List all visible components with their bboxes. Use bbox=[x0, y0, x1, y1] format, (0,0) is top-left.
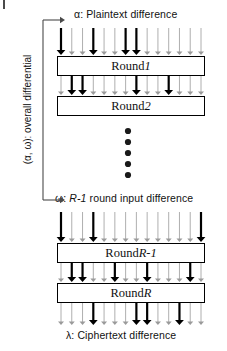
arrow-head bbox=[176, 279, 182, 282]
arrow-head bbox=[187, 52, 193, 55]
arrow-head bbox=[80, 322, 86, 325]
round-box-index: 1 bbox=[145, 59, 151, 74]
arrow-head bbox=[90, 92, 96, 95]
arrow-head bbox=[69, 322, 75, 325]
arrow-head bbox=[198, 279, 204, 282]
arrow-head bbox=[123, 92, 129, 95]
arrow-head bbox=[101, 52, 107, 55]
round-box: Round R bbox=[57, 283, 205, 303]
arrow-row-plaintext-to-round-1 bbox=[57, 28, 204, 55]
bracket-arrow-head bbox=[60, 197, 65, 203]
arrow-head bbox=[101, 239, 107, 242]
differential-cryptanalysis-diagram: (α, ω): overall differential α: Plaintex… bbox=[0, 0, 227, 351]
arrow-head bbox=[89, 320, 98, 325]
arrow-head bbox=[166, 52, 172, 55]
arrow-head bbox=[144, 92, 150, 95]
round-box-prefix: Round bbox=[111, 59, 144, 74]
arrow-head bbox=[112, 52, 118, 55]
arrow-head bbox=[89, 50, 98, 55]
arrow-head bbox=[155, 279, 161, 282]
arrow-head bbox=[67, 277, 76, 282]
arrow-head bbox=[110, 277, 119, 282]
arrow-head bbox=[67, 90, 76, 95]
arrow-head bbox=[57, 50, 66, 55]
arrow-row-round-r-to-ciphertext bbox=[58, 303, 204, 325]
arrow-head bbox=[132, 320, 141, 325]
round-box-prefix: Round bbox=[111, 99, 144, 114]
arrow-head bbox=[132, 50, 141, 55]
arrow-head bbox=[198, 52, 204, 55]
arrow-row-round-1-to-round-2 bbox=[58, 76, 204, 95]
arrow-head bbox=[175, 320, 184, 325]
arrow-head bbox=[143, 277, 152, 282]
arrow-head bbox=[112, 239, 118, 242]
arrow-head bbox=[166, 239, 172, 242]
round-box: Round R-1 bbox=[57, 243, 205, 263]
arrow-head bbox=[89, 237, 98, 242]
arrow-head bbox=[176, 239, 182, 242]
arrow-head bbox=[186, 277, 195, 282]
arrow-row-omega-to-round-r-minus-1 bbox=[57, 212, 206, 242]
arrow-head bbox=[144, 239, 150, 242]
arrow-head bbox=[176, 52, 182, 55]
arrow-head bbox=[123, 279, 129, 282]
arrow-head bbox=[123, 322, 129, 325]
ellipsis-dot bbox=[125, 161, 131, 167]
ellipsis-dot bbox=[125, 139, 131, 145]
arrow-head bbox=[57, 237, 66, 242]
arrow-head bbox=[155, 92, 161, 95]
arrow-row-round-r-minus-1-to-round-r bbox=[58, 263, 204, 282]
arrow-head bbox=[69, 239, 75, 242]
arrow-head bbox=[133, 279, 139, 282]
arrow-head bbox=[112, 322, 118, 325]
arrow-head bbox=[78, 277, 87, 282]
ellipsis-dot bbox=[125, 128, 131, 134]
arrow-head bbox=[58, 322, 64, 325]
arrow-head bbox=[187, 92, 193, 95]
arrow-head bbox=[80, 52, 86, 55]
arrow-head bbox=[112, 92, 118, 95]
round-box-prefix: Round bbox=[105, 246, 138, 261]
vertical-ellipsis bbox=[125, 128, 131, 178]
arrow-head bbox=[121, 50, 130, 55]
arrow-head bbox=[58, 92, 64, 95]
arrow-head bbox=[101, 322, 107, 325]
arrow-head bbox=[155, 239, 161, 242]
arrow-head bbox=[144, 52, 150, 55]
round-box-index: R-1 bbox=[139, 246, 157, 261]
arrow-head bbox=[187, 322, 193, 325]
arrow-head bbox=[90, 279, 96, 282]
arrow-head bbox=[164, 90, 173, 95]
bracket-arrow-head bbox=[60, 17, 65, 23]
arrow-head bbox=[101, 92, 107, 95]
arrow-head bbox=[101, 279, 107, 282]
round-box-prefix: Round bbox=[111, 286, 144, 301]
arrow-head bbox=[132, 90, 141, 95]
arrow-head bbox=[198, 322, 204, 325]
arrow-head bbox=[133, 239, 139, 242]
arrow-head bbox=[166, 279, 172, 282]
arrow-head bbox=[155, 322, 161, 325]
arrow-head bbox=[123, 239, 129, 242]
arrow-head bbox=[143, 320, 152, 325]
round-box: Round 1 bbox=[57, 56, 205, 76]
round-box: Round 2 bbox=[57, 96, 205, 116]
arrow-head bbox=[198, 92, 204, 95]
round-box-index: R bbox=[144, 286, 152, 301]
arrow-head bbox=[187, 239, 193, 242]
arrow-head bbox=[197, 237, 206, 242]
arrow-head bbox=[58, 279, 64, 282]
arrow-head bbox=[155, 52, 161, 55]
arrow-head bbox=[80, 239, 86, 242]
arrow-head bbox=[176, 92, 182, 95]
round-box-index: 2 bbox=[145, 99, 151, 114]
ellipsis-dot bbox=[125, 150, 131, 156]
arrow-head bbox=[166, 322, 172, 325]
arrow-head bbox=[69, 52, 75, 55]
ellipsis-dot bbox=[125, 172, 131, 178]
arrow-head bbox=[78, 90, 87, 95]
